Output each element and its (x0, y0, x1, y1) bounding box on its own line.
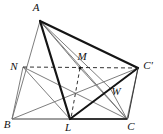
vertex-dot-M (79, 67, 82, 70)
vertex-label-B: B (4, 118, 11, 130)
segment-N-B (12, 67, 23, 119)
diagram-canvas: A N M C' W B L C (0, 0, 163, 134)
segment-A-Cprime-thick (40, 21, 138, 68)
segment-Cprime-L-thick (70, 68, 138, 119)
geometry-figure: A N M C' W B L C (0, 0, 163, 134)
vertex-label-N: N (9, 60, 18, 72)
vertex-label-W: W (111, 85, 121, 97)
vertex-label-L: L (64, 121, 71, 133)
vertex-label-C: C (127, 120, 135, 132)
segment-A-M (40, 21, 80, 68)
vertex-label-M: M (76, 50, 87, 62)
vertex-label-C-prime: C' (143, 59, 153, 71)
vertex-label-A: A (32, 1, 40, 13)
